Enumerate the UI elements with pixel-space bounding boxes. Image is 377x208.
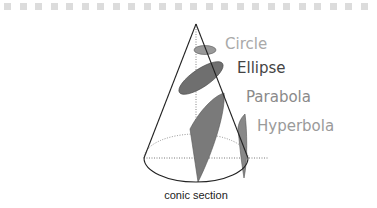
caption: conic section — [146, 189, 246, 201]
parabola-section — [190, 93, 224, 182]
label-hyperbola: Hyperbola — [257, 117, 334, 135]
cone-diagram — [0, 0, 377, 208]
label-ellipse: Ellipse — [237, 59, 286, 77]
ellipse-section — [174, 56, 227, 100]
label-parabola: Parabola — [246, 88, 311, 106]
label-circle: Circle — [225, 35, 267, 53]
